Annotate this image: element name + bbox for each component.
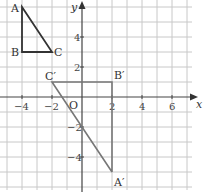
vertex-label-c-prime: C′	[45, 70, 56, 83]
vertex-label-a-prime: A′	[113, 176, 125, 189]
grid	[0, 0, 192, 190]
vertex-label-b: B	[11, 46, 19, 59]
x-tick-label: 6	[169, 101, 175, 112]
y-axis-arrow-icon	[79, 1, 86, 9]
x-tick-label: −4	[14, 101, 29, 112]
y-tick-label: 2	[74, 62, 80, 73]
x-tick-label: −2	[44, 101, 59, 112]
y-tick-label: 4	[74, 32, 80, 43]
x-tick-label: 4	[139, 101, 145, 112]
vertex-label-a: A	[10, 2, 20, 15]
coordinate-diagram: −4 −2 2 4 6 4 2 −2 −4 x y O A B C A′ B′ …	[0, 0, 203, 192]
x-tick-labels: −4 −2 2 4 6	[14, 101, 175, 112]
vertex-label-c: C	[54, 46, 62, 59]
y-axis-label: y	[70, 1, 78, 14]
vertex-label-b-prime: B′	[114, 69, 125, 82]
y-tick-label: −4	[67, 152, 82, 163]
x-axis-label: x	[196, 98, 203, 111]
